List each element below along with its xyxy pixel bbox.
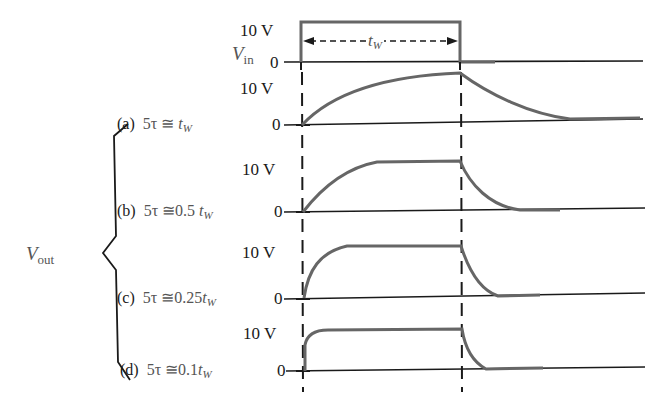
case-b-high-label: 10 V [242,161,275,178]
case-a-expr-sub: W [183,122,192,134]
case-d-expr-sub: W [203,368,212,380]
case-a-id: (a) [117,115,135,132]
output-waveform-c [284,246,645,299]
output-waveform-b [284,161,645,212]
case-d-expr-prefix: 5τ ≅ [147,361,178,378]
case-b-expr-prefix: 5τ ≅ [144,202,175,219]
vin-low-label: 0 [270,54,279,71]
case-a-caption: (a)5τ ≅ tW [117,116,192,134]
vin-high-label: 10 V [240,22,273,39]
case-c-expr-prefix: 5τ ≅ [143,289,174,306]
case-c-id: (c) [117,289,135,306]
waveform-diagram [0,0,668,409]
case-d-low-label: 0 [277,362,286,379]
time-guides [302,72,462,392]
case-d-id: (d) [120,361,139,378]
case-c-high-label: 10 V [242,244,275,261]
case-d-caption: (d)5τ ≅0.1tW [120,362,212,380]
output-waveform-a [284,73,643,125]
case-c-expr-sub: W [207,296,216,308]
case-b-caption: (b)5τ ≅0.5 tW [117,203,213,221]
vout-label-sub: out [38,252,55,267]
pulse-width-label: tW [366,32,384,51]
case-a-high-label: 10 V [240,80,273,97]
vin-label-sub: in [244,52,254,67]
case-c-caption: (c)5τ ≅0.25tW [117,290,216,308]
output-waveform-d [286,329,645,371]
case-d-expr-mult: 0.1 [178,361,198,378]
vout-label-main: V [26,243,38,264]
case-a-low-label: 0 [272,116,281,133]
tw-sub: W [373,39,382,51]
case-b-low-label: 0 [274,203,283,220]
case-b-expr-sub: W [204,209,213,221]
case-b-expr-mult: 0.5 [175,202,195,219]
input-waveform [284,22,643,70]
vin-label: Vin [232,44,254,66]
vout-label: Vout [26,244,54,266]
case-c-expr-mult: 0.25 [174,289,202,306]
case-a-expr-prefix: 5τ ≅ [143,115,174,132]
case-b-id: (b) [117,202,136,219]
case-c-low-label: 0 [274,290,283,307]
vin-label-main: V [232,43,244,64]
case-d-high-label: 10 V [243,325,276,342]
vout-brace [103,124,130,380]
